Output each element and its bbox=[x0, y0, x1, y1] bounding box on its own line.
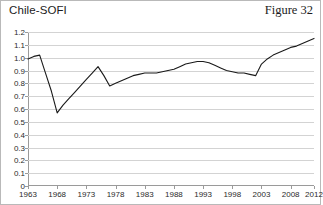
figure-header: Chile-SOFI Figure 32 bbox=[1, 1, 322, 25]
x-tick-mark bbox=[203, 186, 204, 189]
y-tick-label: 1.2 bbox=[14, 28, 25, 37]
y-tick-label: 0.1 bbox=[14, 169, 25, 178]
y-tick-label: 0.5 bbox=[14, 117, 25, 126]
figure-caption: Figure 32 bbox=[265, 3, 313, 18]
chart-plot-area: 1.21.11.00.90.80.70.60.50.40.30.20.10 19… bbox=[28, 32, 314, 186]
y-tick-label: 1.1 bbox=[14, 40, 25, 49]
x-tick-label: 2003 bbox=[253, 190, 271, 199]
y-tick-label: 0.9 bbox=[14, 66, 25, 75]
x-tick-mark bbox=[291, 186, 292, 189]
x-tick-label: 1968 bbox=[48, 190, 66, 199]
x-tick-mark bbox=[116, 186, 117, 189]
x-tick-label: 1993 bbox=[194, 190, 212, 199]
x-tick-label: 1973 bbox=[77, 190, 95, 199]
x-tick-mark bbox=[86, 186, 87, 189]
line-series-path bbox=[28, 38, 314, 112]
x-tick-label: 2012 bbox=[305, 190, 323, 199]
x-tick-mark bbox=[145, 186, 146, 189]
x-tick-mark bbox=[57, 186, 58, 189]
y-tick-label: 0.7 bbox=[14, 92, 25, 101]
y-tick-label: 0.3 bbox=[14, 143, 25, 152]
y-tick-label: 0.2 bbox=[14, 156, 25, 165]
x-tick-label: 2008 bbox=[282, 190, 300, 199]
page-title: Chile-SOFI bbox=[9, 4, 67, 16]
y-tick-label: 0.6 bbox=[14, 105, 25, 114]
x-tick-label: 1988 bbox=[165, 190, 183, 199]
x-tick-mark bbox=[314, 186, 315, 189]
x-tick-mark bbox=[28, 186, 29, 189]
x-tick-label: 1998 bbox=[223, 190, 241, 199]
y-tick-label: 1.0 bbox=[14, 53, 25, 62]
x-tick-mark bbox=[261, 186, 262, 189]
x-tick-label: 1978 bbox=[107, 190, 125, 199]
x-tick-label: 1963 bbox=[19, 190, 37, 199]
line-series-svg bbox=[28, 32, 314, 186]
x-tick-label: 1983 bbox=[136, 190, 154, 199]
x-tick-mark bbox=[232, 186, 233, 189]
x-tick-mark bbox=[174, 186, 175, 189]
y-tick-label: 0.8 bbox=[14, 79, 25, 88]
y-tick-label: 0.4 bbox=[14, 130, 25, 139]
